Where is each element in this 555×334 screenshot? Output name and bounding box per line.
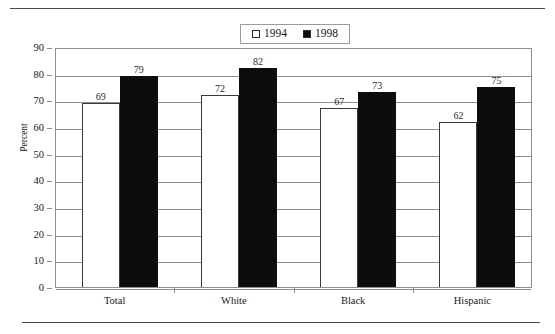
bar-total-1998 <box>120 76 158 287</box>
bar-white-1998 <box>239 68 277 287</box>
y-tick-mark <box>47 75 52 76</box>
x-tick-label-black: Black <box>341 296 366 307</box>
y-tick-mark <box>47 128 52 129</box>
bar-total-1994 <box>82 103 120 287</box>
y-tick-label: 10 <box>34 256 45 267</box>
y-tick-label: 90 <box>34 43 45 54</box>
legend-entry-1994: 1994 <box>252 28 287 40</box>
bar-value-label: 62 <box>439 111 477 121</box>
y-tick-label: 30 <box>34 203 45 214</box>
y-tick-mark <box>47 208 52 209</box>
x-tick-mark <box>174 288 175 293</box>
top-horizontal-rule <box>10 8 545 9</box>
x-tick-mark <box>413 288 414 293</box>
bar-value-label: 82 <box>239 57 277 67</box>
legend-label-1998: 1998 <box>315 28 338 40</box>
bar-white-1994 <box>201 95 239 287</box>
y-tick-label: 80 <box>34 70 45 81</box>
y-tick-mark <box>47 261 52 262</box>
bar-value-label: 67 <box>320 97 358 107</box>
bar-value-label: 73 <box>358 81 396 91</box>
x-tick-label-hispanic: Hispanic <box>454 296 491 307</box>
bar-hispanic-1994 <box>439 122 477 287</box>
hollow-square-icon <box>252 30 260 38</box>
y-tick-label: 20 <box>34 230 45 241</box>
bottom-horizontal-rule <box>22 322 540 323</box>
x-axis: TotalWhiteBlackHispanic <box>0 296 555 312</box>
bar-black-1994 <box>320 108 358 287</box>
y-tick-mark <box>47 181 52 182</box>
y-axis: 0102030405060708090 <box>0 0 52 334</box>
chart-legend: 1994 1998 <box>240 24 350 44</box>
bar-hispanic-1998 <box>477 87 515 287</box>
y-tick-mark <box>47 101 52 102</box>
y-tick-label: 60 <box>34 123 45 134</box>
plot-area: 6979728267736275 <box>55 48 532 288</box>
x-tick-label-total: Total <box>104 296 125 307</box>
x-tick-mark <box>294 288 295 293</box>
bar-value-label: 75 <box>477 76 515 86</box>
legend-entry-1998: 1998 <box>303 28 338 40</box>
bar-value-label: 79 <box>120 65 158 75</box>
bar-black-1998 <box>358 92 396 287</box>
y-tick-mark <box>47 48 52 49</box>
y-tick-label: 50 <box>34 150 45 161</box>
bar-value-label: 72 <box>201 84 239 94</box>
x-axis-ticks <box>0 288 555 294</box>
bar-value-label: 69 <box>82 92 120 102</box>
y-tick-label: 40 <box>34 176 45 187</box>
y-tick-label: 70 <box>34 96 45 107</box>
y-tick-mark <box>47 155 52 156</box>
legend-label-1994: 1994 <box>264 28 287 40</box>
filled-square-icon <box>303 30 311 38</box>
x-tick-label-white: White <box>221 296 247 307</box>
y-tick-mark <box>47 235 52 236</box>
